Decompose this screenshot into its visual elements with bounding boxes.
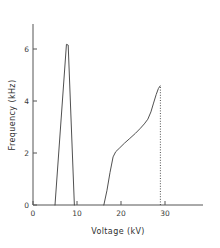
y-tick-label-0: 0 xyxy=(24,201,29,210)
chart-series-group xyxy=(55,44,160,205)
y-axis-title: Frequency (kHz) xyxy=(8,80,17,151)
chart-figure: 6 4 2 0 0 10 20 30 Voltage (kV) Frequenc… xyxy=(0,0,220,248)
chart-svg: 6 4 2 0 0 10 20 30 Voltage (kV) Frequenc… xyxy=(0,0,220,248)
x-tick-label-20: 20 xyxy=(116,209,126,218)
x-axis-ticks xyxy=(33,201,165,205)
x-tick-label-30: 30 xyxy=(160,209,170,218)
y-tick-label-4: 4 xyxy=(24,97,29,106)
x-tick-label-10: 10 xyxy=(72,209,82,218)
series-first-mode-peak xyxy=(55,44,74,205)
x-tick-label-0: 0 xyxy=(31,209,36,218)
x-axis-title: Voltage (kV) xyxy=(91,227,145,236)
series-second-mode-branch xyxy=(104,86,160,205)
y-tick-label-2: 2 xyxy=(24,149,29,158)
y-axis-ticks xyxy=(33,49,37,205)
y-tick-label-6: 6 xyxy=(24,45,29,54)
